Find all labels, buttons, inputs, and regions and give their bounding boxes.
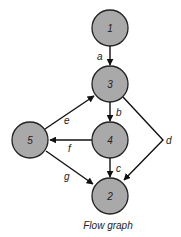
edge-label-d: d	[166, 135, 172, 146]
node-label-4: 4	[107, 135, 113, 146]
edge-d	[123, 97, 163, 180]
node-label-5: 5	[27, 135, 33, 146]
edge-label-b: b	[116, 107, 122, 118]
flow-graph: a b c d e f g 1 3 4 5 2 Flow graph	[0, 0, 181, 237]
node-3: 3	[92, 66, 128, 102]
node-label-3: 3	[107, 79, 113, 90]
edge-label-e: e	[64, 115, 70, 126]
edge-label-g: g	[64, 171, 70, 182]
edge-label-f: f	[68, 143, 72, 154]
node-2: 2	[92, 178, 128, 214]
node-label-1: 1	[107, 23, 113, 34]
edge-label-c: c	[116, 163, 121, 174]
edge-label-a: a	[97, 51, 103, 62]
node-1: 1	[92, 10, 128, 46]
caption: Flow graph	[83, 220, 133, 231]
node-4: 4	[92, 122, 128, 158]
node-5: 5	[12, 122, 48, 158]
node-label-2: 2	[106, 191, 113, 202]
